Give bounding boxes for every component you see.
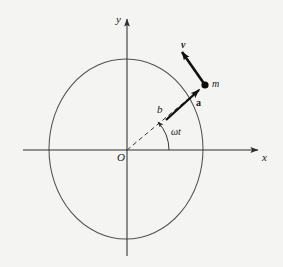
particle-mass-label: m (212, 79, 219, 89)
velocity-vector (182, 52, 205, 85)
x-axis-label: x (262, 152, 267, 163)
y-axis-label: y (116, 14, 121, 25)
particle-dot (201, 81, 208, 88)
angle-label: ωt (171, 127, 181, 137)
acceleration-vector-label: a (196, 98, 201, 108)
trajectory-circle (49, 59, 203, 239)
radius-label: b (157, 104, 163, 115)
angle-arc (158, 122, 169, 150)
origin-label: O (117, 152, 125, 163)
acceleration-vector (166, 90, 199, 120)
physics-figure-canvas: y x O m v a b ωt (0, 0, 283, 267)
velocity-vector-label: v (181, 40, 185, 50)
figure-vector-graphics (0, 0, 283, 267)
